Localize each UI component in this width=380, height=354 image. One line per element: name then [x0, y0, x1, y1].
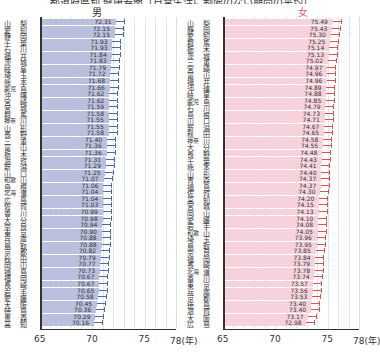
error-bar: [103, 185, 112, 186]
error-bar: [103, 191, 112, 192]
error-bar: [102, 244, 111, 245]
error-bar: [315, 263, 324, 264]
error-bar: [321, 165, 330, 166]
x-tick-label: 70: [86, 334, 97, 344]
x-tick-label: 65: [217, 334, 228, 344]
error-bar: [327, 80, 336, 81]
error-bar: [331, 34, 340, 35]
x-tick-label: 70: [269, 334, 280, 344]
error-bar: [315, 257, 324, 258]
error-bar: [107, 152, 116, 153]
bar-value-label: 70.16: [72, 319, 89, 326]
error-bar: [109, 119, 118, 120]
error-bar: [112, 47, 121, 48]
error-bar: [329, 47, 338, 48]
error-bar: [106, 165, 115, 166]
x-tick-label: 78(年): [170, 334, 197, 347]
error-bar: [325, 106, 334, 107]
error-bar: [109, 113, 118, 114]
error-bar: [321, 185, 330, 186]
error-bar: [107, 139, 116, 140]
error-bar: [317, 244, 326, 245]
error-bar: [109, 126, 118, 127]
error-bar: [103, 211, 112, 212]
x-axis: [223, 329, 359, 330]
error-bar: [333, 21, 342, 22]
error-bar: [313, 290, 322, 291]
error-bar: [102, 224, 111, 225]
error-bar: [313, 283, 322, 284]
error-bar: [324, 132, 333, 133]
x-tick-label: 75: [322, 334, 333, 344]
error-bar: [100, 263, 109, 264]
error-bar: [102, 237, 111, 238]
error-bar: [323, 145, 332, 146]
error-bar: [102, 231, 111, 232]
error-bar: [110, 80, 119, 81]
error-bar: [103, 204, 112, 205]
error-bar: [306, 322, 315, 323]
error-bar: [99, 290, 108, 291]
error-bar: [116, 21, 125, 22]
error-bar: [107, 145, 116, 146]
error-bar: [111, 67, 120, 68]
error-bar: [325, 119, 334, 120]
error-bar: [105, 172, 114, 173]
error-bar: [94, 322, 103, 323]
error-bar: [101, 257, 110, 258]
x-tick-label: 78(年): [353, 334, 380, 347]
error-bar: [112, 41, 121, 42]
error-bar: [111, 60, 120, 61]
error-bar: [100, 270, 109, 271]
error-bar: [318, 231, 327, 232]
error-bar: [319, 204, 328, 205]
error-bar: [318, 218, 327, 219]
error-bar: [324, 126, 333, 127]
error-bar: [314, 276, 323, 277]
error-bar: [311, 303, 320, 304]
error-bar: [104, 178, 113, 179]
error-bar: [109, 100, 118, 101]
error-bar: [326, 93, 335, 94]
error-bar: [110, 87, 119, 88]
female-plot-area: 75.4975.4375.3075.2575.1475.1375.0274.97…: [223, 17, 360, 329]
error-bar: [319, 211, 328, 212]
error-bar: [327, 67, 336, 68]
error-bar: [106, 159, 115, 160]
error-bar: [316, 250, 325, 251]
error-bar: [312, 296, 321, 297]
error-bar: [326, 87, 335, 88]
error-bar: [115, 28, 124, 29]
error-bar: [325, 113, 334, 114]
error-bar: [329, 54, 338, 55]
error-bar: [97, 303, 106, 304]
chart-title: 都道府県別 健康寿命（日常生活に制限のない期間の平均）: [0, 0, 363, 4]
error-bar: [330, 41, 339, 42]
error-bar: [99, 283, 108, 284]
error-bar: [109, 106, 118, 107]
error-bar: [326, 100, 335, 101]
error-bar: [319, 198, 328, 199]
error-bar: [321, 172, 330, 173]
error-bar: [327, 73, 336, 74]
male-plot-area: 72.3172.1572.1571.9371.9371.8471.8371.79…: [40, 17, 177, 329]
error-bar: [98, 296, 107, 297]
error-bar: [321, 178, 330, 179]
error-bar: [323, 139, 332, 140]
error-bar: [315, 270, 324, 271]
error-bar: [311, 309, 320, 310]
error-bar: [332, 28, 341, 29]
bar-value-label: 72.98: [284, 319, 301, 326]
x-tick-label: 65: [34, 334, 45, 344]
bar-row: 72.98: [223, 320, 359, 327]
error-bar: [103, 218, 112, 219]
error-bar: [320, 191, 329, 192]
error-bar: [318, 224, 327, 225]
x-tick-label: 75: [139, 334, 150, 344]
bar-row: 70.16: [40, 320, 176, 327]
error-bar: [101, 250, 110, 251]
error-bar: [96, 309, 105, 310]
error-bar: [322, 152, 331, 153]
error-bar: [95, 316, 104, 317]
error-bar: [112, 54, 121, 55]
